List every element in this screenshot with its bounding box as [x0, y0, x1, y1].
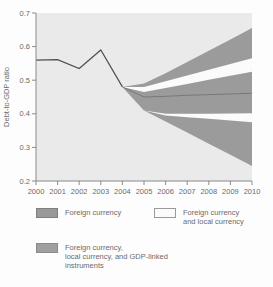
svg-text:2010: 2010 — [244, 187, 261, 196]
svg-text:2003: 2003 — [92, 187, 109, 196]
legend-swatch-gdp-linked-instruments — [36, 243, 58, 253]
svg-text:0.4: 0.4 — [20, 109, 30, 118]
svg-text:0.2: 0.2 — [20, 177, 30, 186]
svg-text:0.5: 0.5 — [20, 76, 30, 85]
svg-text:2006: 2006 — [157, 187, 174, 196]
legend-label-foreign-and-local-currency: Foreign currency and local currency — [183, 208, 244, 226]
svg-text:2007: 2007 — [179, 187, 196, 196]
legend-text: Foreign currency — [65, 208, 121, 217]
svg-text:2002: 2002 — [71, 187, 88, 196]
legend-item-foreign-and-local-currency: Foreign currency and local currency — [154, 208, 269, 226]
legend-text: and local currency — [183, 217, 244, 226]
legend-label-gdp-linked-instruments: Foreign currency, local currency, and GD… — [65, 243, 168, 270]
svg-text:2001: 2001 — [49, 187, 66, 196]
svg-text:2005: 2005 — [136, 187, 153, 196]
chart-canvas: 0.70.60.50.40.30.22000200120022003200420… — [0, 0, 273, 200]
svg-text:0.7: 0.7 — [20, 9, 30, 18]
debt-to-gdp-fan-chart: 0.70.60.50.40.30.22000200120022003200420… — [0, 0, 273, 200]
legend-text: Foreign currency — [183, 208, 244, 217]
legend-swatch-foreign-currency — [36, 208, 58, 218]
svg-text:2009: 2009 — [222, 187, 239, 196]
svg-text:2008: 2008 — [200, 187, 217, 196]
svg-text:0.3: 0.3 — [20, 143, 30, 152]
legend-item-foreign-currency: Foreign currency — [36, 208, 146, 218]
svg-text:2004: 2004 — [114, 187, 131, 196]
svg-text:0.6: 0.6 — [20, 42, 30, 51]
figure-page: 0.70.60.50.40.30.22000200120022003200420… — [0, 0, 273, 287]
svg-text:Debt-to-GDP ratio: Debt-to-GDP ratio — [2, 67, 11, 127]
legend-item-gdp-linked-instruments: Foreign currency, local currency, and GD… — [36, 243, 206, 270]
legend-text: local currency, and GDP-linked — [65, 252, 168, 261]
svg-text:2000: 2000 — [28, 187, 45, 196]
legend-swatch-foreign-and-local-currency — [154, 208, 176, 218]
legend-text: Foreign currency, — [65, 243, 168, 252]
legend-text: instruments — [65, 261, 168, 270]
legend-label-foreign-currency: Foreign currency — [65, 208, 121, 217]
